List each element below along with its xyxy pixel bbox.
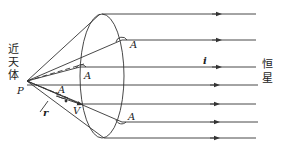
aberration-diagram: 近 天 体 P r V A A A A i 恒 星 [0, 0, 281, 150]
point-p-label: P [17, 86, 24, 96]
right-label-char-2: 星 [262, 73, 273, 84]
angle-a-label-bottom: A [128, 112, 135, 122]
angle-a-label-lower: A [58, 85, 65, 95]
left-label-char-2: 天 [8, 57, 19, 68]
right-label-char-1: 恒 [262, 59, 273, 70]
angle-a-label-mid: A [84, 71, 91, 81]
line-p-top [27, 40, 122, 81]
left-label-char-1: 近 [8, 44, 19, 55]
dashed-apparent-top [27, 64, 84, 81]
velocity-vector [56, 96, 80, 104]
diagram-canvas [0, 0, 281, 150]
left-label-char-3: 体 [8, 70, 19, 81]
vector-r-label: r [43, 108, 48, 118]
angle-a-label-top: A [130, 40, 137, 50]
vector-i-label: i [203, 56, 207, 66]
velocity-v-label: V [73, 106, 80, 116]
